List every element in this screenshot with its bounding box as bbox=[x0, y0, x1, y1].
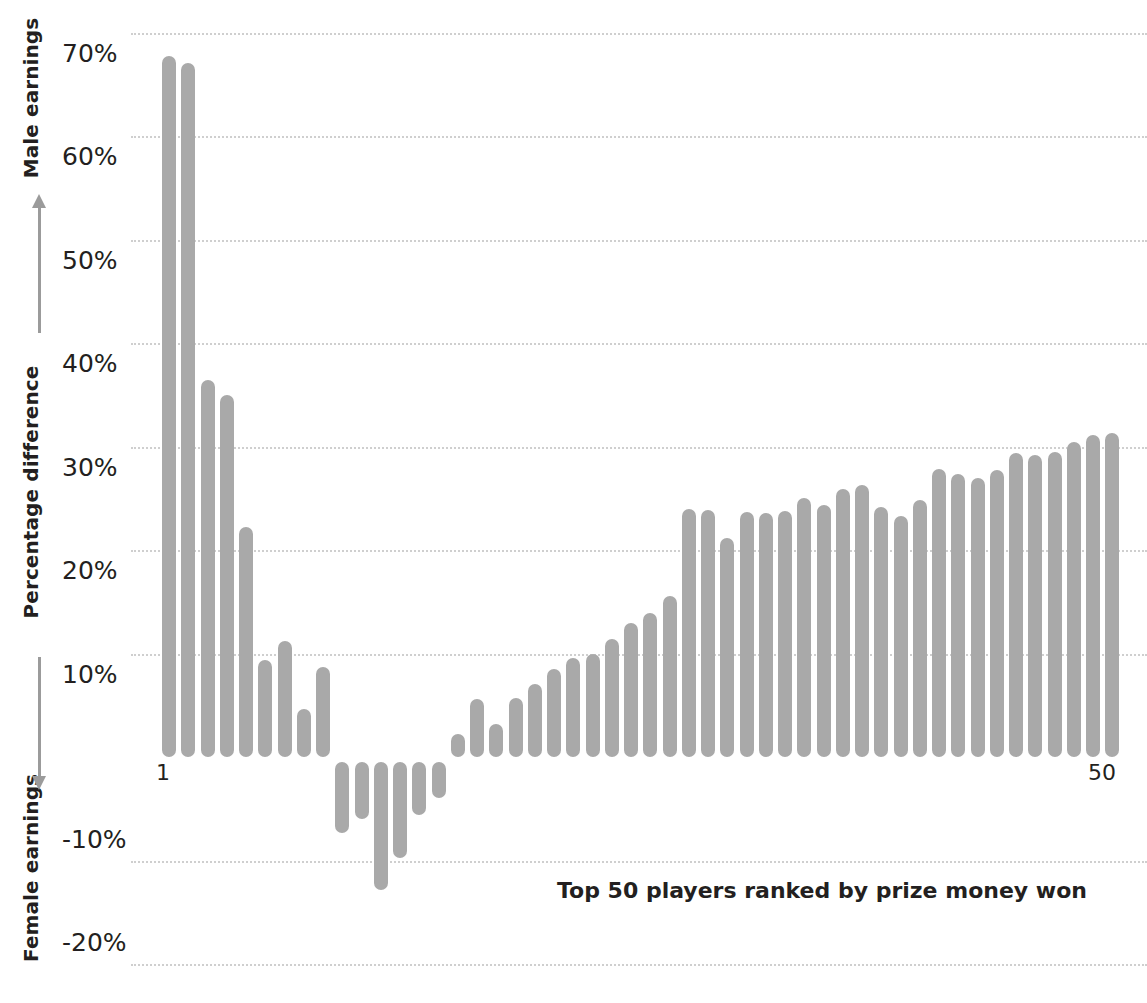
bar bbox=[1028, 455, 1042, 757]
arrow-up-icon bbox=[32, 194, 46, 208]
bar bbox=[605, 639, 619, 757]
bar bbox=[643, 613, 657, 757]
y-axis-caption-column: Male earnings Percentage difference Fema… bbox=[0, 0, 62, 1003]
chart-caption: Top 50 players ranked by prize money won bbox=[557, 878, 1087, 903]
bar bbox=[432, 762, 446, 798]
arrow-down-icon bbox=[32, 776, 46, 790]
bar bbox=[932, 469, 946, 757]
bar-series bbox=[62, 0, 1147, 1003]
bar bbox=[528, 684, 542, 757]
bar bbox=[682, 509, 696, 757]
bar bbox=[181, 63, 195, 757]
bar bbox=[335, 762, 349, 833]
bar bbox=[701, 510, 715, 757]
bar bbox=[393, 762, 407, 858]
plot-area: 70%60%50%40%30%20%10%-10%-20% 1 50 Top 5… bbox=[62, 0, 1147, 1003]
bar bbox=[489, 724, 503, 757]
bar bbox=[1105, 433, 1119, 757]
y-axis-negative-direction-label: Female earnings bbox=[19, 774, 43, 962]
bar bbox=[451, 734, 465, 757]
bar bbox=[162, 56, 176, 757]
bar bbox=[278, 641, 292, 757]
bar bbox=[547, 669, 561, 757]
bar bbox=[412, 762, 426, 815]
arrow-down-shaft bbox=[38, 657, 41, 779]
bar bbox=[374, 762, 388, 890]
chart-page: Male earnings Percentage difference Fema… bbox=[0, 0, 1147, 1003]
bar bbox=[778, 511, 792, 757]
bar bbox=[971, 478, 985, 757]
bar bbox=[316, 667, 330, 757]
bar bbox=[220, 395, 234, 757]
bar bbox=[355, 762, 369, 819]
bar bbox=[624, 623, 638, 757]
bar bbox=[566, 658, 580, 757]
bar bbox=[509, 698, 523, 757]
bar bbox=[894, 516, 908, 757]
bar bbox=[297, 709, 311, 757]
x-axis-last-tick-label: 50 bbox=[1088, 760, 1116, 785]
bar bbox=[1067, 442, 1081, 757]
bar bbox=[258, 660, 272, 757]
bar bbox=[951, 474, 965, 757]
arrow-up-shaft bbox=[38, 207, 41, 333]
bar bbox=[663, 596, 677, 757]
bar bbox=[1086, 435, 1100, 757]
bar bbox=[797, 498, 811, 757]
bar bbox=[586, 654, 600, 758]
bar bbox=[836, 489, 850, 757]
bar bbox=[239, 527, 253, 757]
y-axis-positive-direction-label: Male earnings bbox=[19, 18, 43, 179]
bar bbox=[740, 512, 754, 757]
bar bbox=[1009, 453, 1023, 757]
bar bbox=[1048, 452, 1062, 757]
bar bbox=[913, 500, 927, 757]
x-axis-first-tick-label: 1 bbox=[156, 760, 170, 785]
bar bbox=[759, 513, 773, 757]
y-axis-title: Percentage difference bbox=[19, 366, 43, 619]
bar bbox=[990, 470, 1004, 757]
bar bbox=[470, 699, 484, 757]
bar bbox=[874, 507, 888, 757]
bar bbox=[720, 538, 734, 757]
bar bbox=[817, 505, 831, 757]
bar bbox=[201, 380, 215, 757]
bar bbox=[855, 485, 869, 757]
